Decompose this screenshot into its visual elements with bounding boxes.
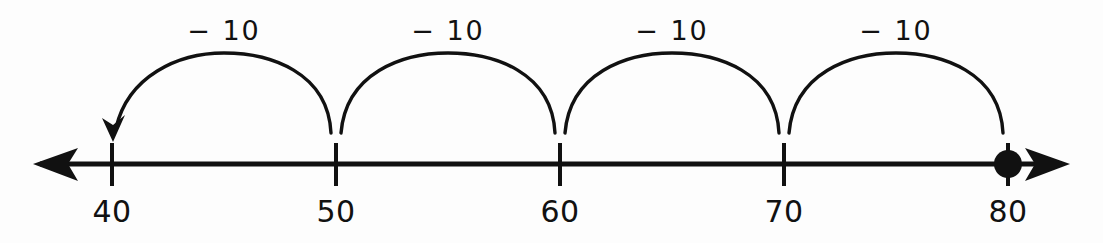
jump-arc-80-to-70 [789, 53, 1003, 133]
tick-label-40: 40 [92, 194, 131, 229]
marked-point-dot [994, 150, 1022, 178]
tick-label-70: 70 [764, 194, 803, 229]
jump-label-2: − 10 [411, 15, 485, 46]
jump-label-1: − 10 [187, 15, 261, 46]
jump-label-4: − 10 [859, 15, 933, 46]
number-line-canvas: − 10 − 10 − 10 − 10 40 50 60 70 80 [0, 0, 1103, 243]
tick-label-60: 60 [540, 194, 579, 229]
jump-arc-60-to-50 [341, 53, 555, 133]
jump-arrow-head-icon [102, 115, 125, 142]
tick-label-80: 80 [988, 194, 1027, 229]
tick-label-50: 50 [316, 194, 355, 229]
number-line-diagram: − 10 − 10 − 10 − 10 40 50 60 70 80 [0, 0, 1103, 243]
jump-label-3: − 10 [635, 15, 709, 46]
jump-arc-50-to-40 [116, 53, 331, 133]
jump-arc-70-to-60 [565, 53, 779, 133]
